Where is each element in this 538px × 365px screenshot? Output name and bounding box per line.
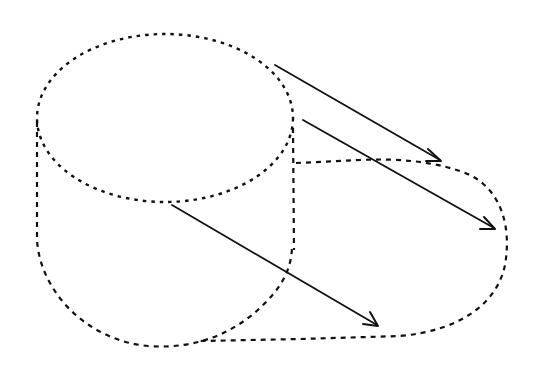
- arrow-top: [275, 65, 441, 161]
- cylinder-projection-diagram: [0, 0, 538, 365]
- cylinder-top-ellipse: [37, 34, 293, 202]
- arrowhead-icon: [480, 217, 495, 229]
- cylinder-right-side: [293, 128, 294, 250]
- arrowhead-icon: [426, 149, 441, 161]
- projected-shape-outline: [200, 160, 507, 341]
- cylinder-left-and-bottom-outline: [37, 122, 292, 347]
- arrow-bottom: [172, 205, 378, 326]
